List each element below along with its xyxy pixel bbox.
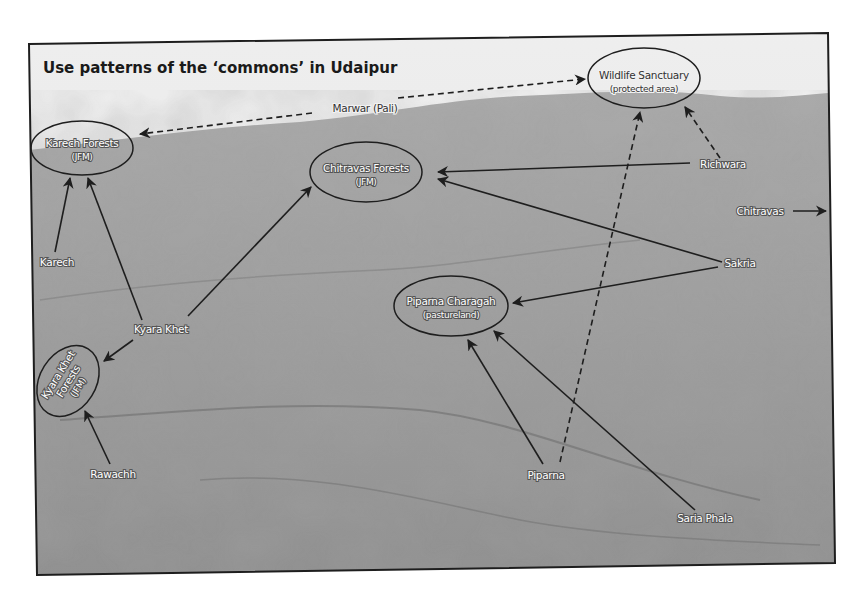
commons-use-diagram: Use patterns of the ‘commons’ in Udaipur… — [0, 0, 859, 602]
label-chitravas-forests-type: (JFM) — [355, 177, 376, 187]
label-karech-forests: Karech Forests — [46, 137, 119, 149]
village-chitravas: Chitravas — [736, 205, 783, 217]
village-saria-phala: Saria Phala — [677, 512, 733, 524]
label-piparna-charagah: Piparna Charagah — [407, 295, 496, 307]
label-wildlife-sanctuary-type: (protected area) — [610, 84, 679, 94]
label-wildlife-sanctuary: Wildlife Sanctuary — [599, 69, 689, 81]
label-piparna-charagah-type: (pastureland) — [423, 310, 480, 320]
village-rawachh: Rawachh — [90, 468, 136, 480]
village-richwara: Richwara — [700, 158, 746, 170]
label-chitravas-forests: Chitravas Forests — [323, 162, 409, 174]
village-kyara-khet: Kyara Khet — [134, 323, 188, 335]
village-piparna: Piparna — [527, 469, 564, 481]
diagram-title: Use patterns of the ‘commons’ in Udaipur — [43, 59, 398, 77]
village-karech: Karech — [40, 256, 74, 268]
label-karech-forests-type: (JFM) — [71, 152, 92, 162]
village-marwar: Marwar (Pali) — [333, 102, 398, 114]
village-sakria: Sakria — [724, 257, 755, 269]
